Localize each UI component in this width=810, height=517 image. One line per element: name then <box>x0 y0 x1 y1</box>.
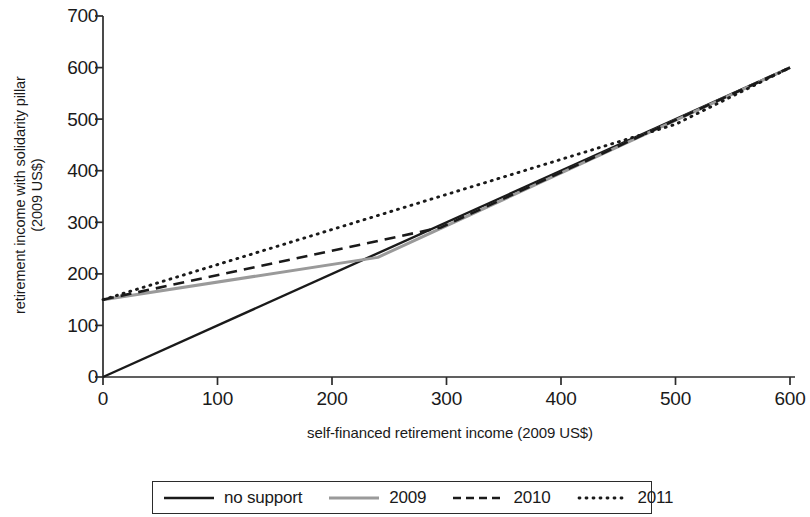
legend-label-no-support: no support <box>224 488 302 508</box>
series-line-2011 <box>103 68 790 300</box>
x-axis-ticks <box>103 377 790 385</box>
x-tick-500: 500 <box>660 388 691 410</box>
legend-item-2011[interactable]: 2011 <box>576 488 673 508</box>
x-axis-tick-labels: 0 100 200 300 400 500 600 <box>0 388 810 416</box>
x-tick-400: 400 <box>546 388 577 410</box>
legend-label-2009: 2009 <box>389 488 426 508</box>
legend-item-2010[interactable]: 2010 <box>452 488 550 508</box>
x-tick-600: 600 <box>775 388 806 410</box>
legend-swatch-2009 <box>328 491 380 505</box>
y-axis-ticks <box>95 16 103 377</box>
series-line-2010 <box>103 68 790 300</box>
x-tick-300: 300 <box>431 388 462 410</box>
x-tick-100: 100 <box>202 388 233 410</box>
x-axis-title: self-financed retirement income (2009 US… <box>100 424 800 441</box>
x-tick-200: 200 <box>317 388 348 410</box>
x-tick-0: 0 <box>98 388 108 410</box>
legend-item-no-support[interactable]: no support <box>163 488 302 508</box>
chart-figure: retirement income with solidarity pillar… <box>0 0 810 517</box>
legend-label-2010: 2010 <box>513 488 550 508</box>
axis-spines <box>103 16 795 377</box>
legend-swatch-2010 <box>452 491 504 505</box>
legend-label-2011: 2011 <box>637 488 673 508</box>
plot-area <box>0 0 810 420</box>
series-line-2009 <box>103 68 790 300</box>
chart-legend: no support 2009 2010 2011 <box>152 481 652 514</box>
legend-swatch-no-support <box>163 491 215 505</box>
legend-swatch-2011 <box>576 491 628 505</box>
legend-item-2009[interactable]: 2009 <box>328 488 426 508</box>
data-series-layer <box>103 68 790 377</box>
